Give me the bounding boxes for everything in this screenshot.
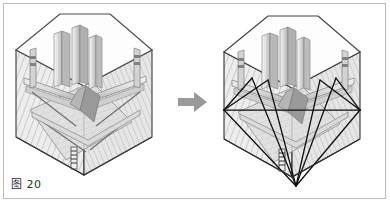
side-mast-left	[30, 48, 36, 88]
transform-arrow	[176, 88, 210, 118]
side-mast-right	[342, 50, 348, 90]
panel-after	[210, 0, 390, 203]
figure-caption: 图 20	[11, 175, 42, 191]
side-mast-right	[134, 48, 140, 88]
ladder-marker	[71, 147, 77, 169]
side-mast-left	[238, 50, 244, 90]
figure-root: 图 20	[0, 0, 390, 203]
panel-before	[0, 0, 172, 203]
arrow-icon	[178, 92, 207, 112]
